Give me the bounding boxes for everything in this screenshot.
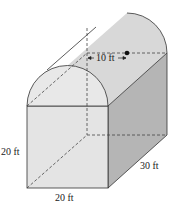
front-face — [27, 106, 108, 188]
building-diagram: 10 ft 20 ft 20 ft 30 ft — [0, 0, 175, 216]
width-label: 20 ft — [55, 192, 74, 203]
height-label: 20 ft — [1, 146, 20, 157]
center-point — [125, 51, 130, 56]
length-label: 30 ft — [140, 160, 159, 171]
radius-label: 10 ft — [96, 52, 115, 63]
